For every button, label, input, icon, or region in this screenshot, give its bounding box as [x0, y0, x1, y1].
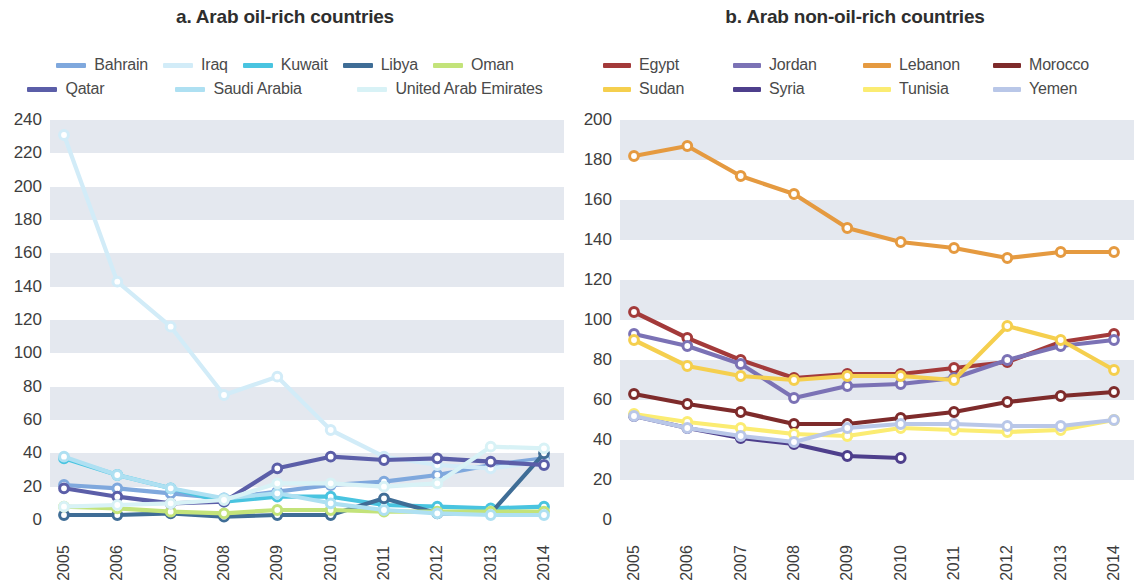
y-axis-tick-label: 60 — [23, 410, 42, 430]
series-marker — [896, 420, 905, 429]
series-marker — [843, 372, 852, 381]
y-axis-tick-label: 40 — [23, 443, 42, 463]
legend-label: Syria — [769, 80, 804, 98]
legend-label: Sudan — [639, 80, 684, 98]
legend-row: Sudan Syria Tunisia Yemen — [570, 80, 1140, 98]
series-marker — [896, 238, 905, 247]
y-axis-tick-label: 20 — [23, 477, 42, 497]
x-axis-tick-label: 2010 — [892, 537, 910, 581]
series-jordan — [630, 330, 1119, 403]
y-axis-tick-label: 180 — [14, 210, 42, 230]
series-marker — [326, 426, 335, 435]
legend-label: Iraq — [201, 56, 228, 74]
x-axis-tick-label: 2007 — [732, 537, 750, 581]
series-marker — [630, 336, 639, 345]
x-axis-tick-label: 2006 — [108, 537, 126, 581]
legend-swatch-icon — [243, 63, 273, 68]
legend-item-jordan: Jordan — [733, 56, 847, 74]
legend-label: Lebanon — [899, 56, 960, 74]
series-marker — [950, 408, 959, 417]
series-marker — [790, 376, 799, 385]
series-marker — [326, 479, 335, 488]
series-marker — [380, 456, 389, 465]
series-marker — [790, 394, 799, 403]
series-marker — [433, 509, 442, 518]
panel-a-plot: 020406080100120140160180200220240 200520… — [0, 120, 570, 520]
panel-b-plot: 020406080100120140160180200 200520062007… — [570, 120, 1140, 520]
legend-label: United Arab Emirates — [395, 80, 542, 98]
panel-b-legend: Egypt Jordan Lebanon Morocco S — [570, 56, 1140, 98]
y-axis-tick-label: 80 — [593, 350, 612, 370]
series-marker — [166, 484, 175, 493]
panel-b-title: b. Arab non-oil-rich countries — [570, 6, 1140, 28]
x-axis-tick-label: 2007 — [162, 537, 180, 581]
legend-label: Oman — [471, 56, 514, 74]
legend-swatch-icon — [357, 87, 387, 92]
series-marker — [736, 372, 745, 381]
legend-item-lebanon: Lebanon — [863, 56, 977, 74]
legend-item-kuwait: Kuwait — [243, 56, 328, 74]
series-marker — [950, 420, 959, 429]
y-axis-tick-label: 160 — [584, 190, 612, 210]
series-marker — [486, 442, 495, 451]
series-marker — [630, 152, 639, 161]
series-marker — [736, 360, 745, 369]
x-axis-panel-a: 2005200620072008200920102011201220132014 — [50, 524, 564, 581]
y-axis-tick-label: 100 — [14, 343, 42, 363]
x-axis-tick-label: 2011 — [945, 537, 963, 581]
legend-label: Egypt — [639, 56, 679, 74]
legend-item-egypt: Egypt — [603, 56, 717, 74]
y-axis-tick-label: 120 — [584, 270, 612, 290]
series-marker — [843, 382, 852, 391]
legend-swatch-icon — [863, 63, 891, 68]
x-axis-tick-label: 2013 — [1052, 537, 1070, 581]
legend-item-syria: Syria — [733, 80, 847, 98]
series-marker — [60, 131, 69, 140]
series-marker — [220, 509, 229, 518]
series-line — [634, 392, 1114, 424]
y-axis-tick-label: 40 — [593, 430, 612, 450]
legend-swatch-icon — [163, 63, 193, 68]
y-axis-tick-label: 60 — [593, 390, 612, 410]
legend-swatch-icon — [603, 63, 631, 68]
panel-a: a. Arab oil-rich countries Bahrain Iraq … — [0, 0, 570, 581]
y-axis-tick-label: 120 — [14, 310, 42, 330]
series-lines-panel-a — [50, 120, 564, 520]
series-marker — [1056, 392, 1065, 401]
legend-swatch-icon — [603, 87, 631, 92]
series-marker — [1056, 248, 1065, 257]
legend-item-united-arab-emirates: United Arab Emirates — [357, 80, 542, 98]
y-axis-tick-label: 140 — [14, 277, 42, 297]
series-united-arab-emirates — [60, 442, 549, 511]
series-marker — [790, 438, 799, 447]
legend-label: Yemen — [1029, 80, 1077, 98]
series-marker — [896, 454, 905, 463]
legend-item-tunisia: Tunisia — [863, 80, 977, 98]
plot-area-panel-b — [620, 120, 1134, 520]
panel-b: b. Arab non-oil-rich countries Egypt Jor… — [570, 0, 1140, 581]
series-marker — [1056, 336, 1065, 345]
series-marker — [683, 424, 692, 433]
y-axis-tick-label: 80 — [23, 377, 42, 397]
legend-item-bahrain: Bahrain — [56, 56, 148, 74]
series-marker — [60, 502, 69, 511]
x-axis-tick-label: 2006 — [678, 537, 696, 581]
y-axis-tick-label: 240 — [14, 110, 42, 130]
legend-item-qatar: Qatar — [27, 80, 175, 98]
series-marker — [540, 444, 549, 453]
legend-label: Morocco — [1029, 56, 1089, 74]
series-marker — [60, 452, 69, 461]
series-marker — [683, 400, 692, 409]
series-marker — [486, 511, 495, 520]
series-marker — [273, 506, 282, 515]
series-marker — [790, 190, 799, 199]
legend-item-yemen: Yemen — [993, 80, 1107, 98]
series-marker — [630, 390, 639, 399]
series-marker — [113, 501, 122, 510]
legend-item-libya: Libya — [343, 56, 418, 74]
x-axis-tick-label: 2008 — [785, 537, 803, 581]
y-axis-tick-label: 20 — [593, 470, 612, 490]
series-marker — [683, 342, 692, 351]
x-axis-tick-label: 2014 — [535, 537, 553, 581]
series-marker — [433, 454, 442, 463]
